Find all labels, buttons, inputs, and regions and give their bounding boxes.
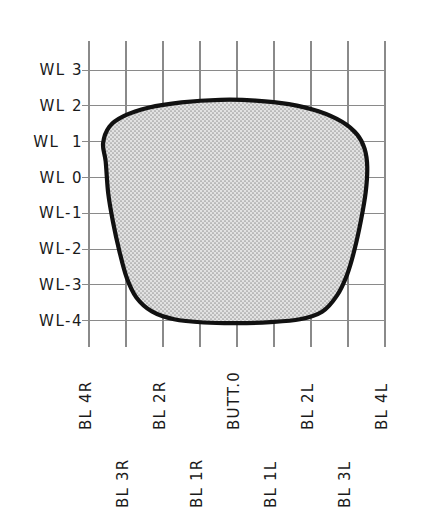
waterline-label-0: WL 0 — [9, 169, 83, 187]
hull-section-fill — [103, 100, 367, 324]
hull-section-figure: WL 3WL 2WL 1WL 0WL-1WL-2WL-3WL-4 BL 4RBL… — [0, 0, 424, 520]
buttockline-label-butt-0: BUTT.0 — [225, 371, 243, 430]
waterline-label-neg3: WL-3 — [9, 276, 83, 294]
buttockline-label-bl-3l: BL 3L — [336, 461, 354, 508]
waterline-label-3: WL 3 — [9, 61, 83, 79]
buttockline-label-bl-1l: BL 1L — [262, 461, 280, 508]
buttockline-label-bl-1r: BL 1R — [188, 459, 206, 508]
buttockline-label-bl-2r: BL 2R — [151, 381, 169, 430]
waterline-label-2: WL 2 — [9, 97, 83, 115]
buttockline-label-bl-2l: BL 2L — [299, 383, 317, 430]
buttockline-label-bl-4r: BL 4R — [77, 381, 95, 430]
buttockline-label-bl-3r: BL 3R — [114, 459, 132, 508]
waterline-label-neg4: WL-4 — [9, 312, 83, 330]
waterline-label-1: WL 1 — [9, 133, 83, 151]
buttockline-label-bl-4l: BL 4L — [373, 383, 391, 430]
waterline-label-neg1: WL-1 — [9, 204, 83, 222]
waterline-label-neg2: WL-2 — [9, 240, 83, 258]
